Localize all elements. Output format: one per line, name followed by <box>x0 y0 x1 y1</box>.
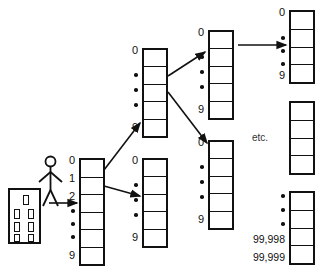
array-cell[interactable] <box>210 67 232 84</box>
level-3-top-ellipsis-dot <box>281 62 285 66</box>
level-3-top-ellipsis-dot <box>281 36 285 40</box>
array-cell[interactable] <box>210 177 232 194</box>
array-cell[interactable] <box>291 30 313 48</box>
level-1-lower-ellipsis-dot <box>134 198 138 202</box>
array-cell[interactable] <box>144 160 166 177</box>
array-cell[interactable] <box>210 32 232 49</box>
array-cell[interactable] <box>291 139 313 157</box>
array-cell[interactable] <box>144 230 166 246</box>
level-0-index-ellipsis-dot <box>71 235 75 239</box>
array-cell[interactable] <box>81 248 103 265</box>
level-2-lower-ellipsis-dot <box>200 180 204 184</box>
building-window <box>23 195 29 205</box>
level-2-upper-ellipsis-dot <box>200 55 204 59</box>
level-2-upper-index-0: 0 <box>191 27 204 38</box>
level-3-bottom-index-99999: 99,999 <box>243 252 285 263</box>
level-1-upper-ellipsis-dot <box>134 103 138 107</box>
array-cell[interactable] <box>81 230 103 248</box>
array-cell[interactable] <box>81 160 103 178</box>
array-cell[interactable] <box>210 142 232 159</box>
array-cell[interactable] <box>81 195 103 213</box>
level-1-upper-index-0: 0 <box>125 45 138 56</box>
level-3-array-top[interactable] <box>289 10 315 84</box>
level-3-bottom-ellipsis-dot <box>281 208 285 212</box>
level-1-upper-ellipsis-dot <box>134 88 138 92</box>
level-2-lower-index-9: 9 <box>191 214 204 225</box>
level-0-index-ellipsis-dot <box>71 209 75 213</box>
level-2-array-upper[interactable] <box>208 30 234 120</box>
level-1-upper-ellipsis-dot <box>134 73 138 77</box>
level-1-array-lower[interactable] <box>142 158 168 248</box>
building-window <box>14 222 20 232</box>
level-3-array-bottom[interactable] <box>289 191 315 265</box>
level-0-index-2: 2 <box>62 191 75 202</box>
array-cell[interactable] <box>291 211 313 229</box>
building-window <box>14 234 20 242</box>
office-building-icon <box>8 188 41 244</box>
level-3-top-index-9: 9 <box>272 70 285 81</box>
array-cell[interactable] <box>291 12 313 30</box>
level-0-array[interactable] <box>79 158 105 266</box>
array-cell[interactable] <box>291 229 313 247</box>
level-3-bottom-ellipsis-dot <box>281 222 285 226</box>
array-cell[interactable] <box>81 178 103 196</box>
level-2-lower-ellipsis-dot <box>200 195 204 199</box>
diagram-canvas: 0 1 2 9 0 9 0 9 0 9 <box>0 0 328 274</box>
level-3-bottom-ellipsis-dot <box>281 194 285 198</box>
array-cell[interactable] <box>291 121 313 139</box>
array-cell[interactable] <box>144 212 166 229</box>
level-1-lower-ellipsis-dot <box>134 183 138 187</box>
building-window <box>14 209 20 219</box>
array-cell[interactable] <box>291 48 313 66</box>
array-cell[interactable] <box>291 193 313 211</box>
level-1-lower-index-9: 9 <box>125 232 138 243</box>
array-cell[interactable] <box>144 67 166 84</box>
level-0-index-9: 9 <box>62 250 75 261</box>
array-cell[interactable] <box>144 50 166 67</box>
array-cell[interactable] <box>81 213 103 231</box>
level-1-lower-ellipsis-dot <box>134 213 138 217</box>
level-3-top-ellipsis-dot <box>281 49 285 53</box>
level-2-array-lower[interactable] <box>208 140 234 230</box>
building-window <box>28 234 34 242</box>
stick-figure-icon <box>39 157 62 207</box>
level-1-lower-index-0: 0 <box>125 155 138 166</box>
array-cell[interactable] <box>210 84 232 101</box>
level-2-upper-index-9: 9 <box>191 104 204 115</box>
array-cell[interactable] <box>291 246 313 263</box>
array-cell[interactable] <box>210 212 232 228</box>
array-cell[interactable] <box>291 156 313 173</box>
array-cell[interactable] <box>210 102 232 118</box>
level-0-index-0: 0 <box>62 155 75 166</box>
array-cell[interactable] <box>210 159 232 176</box>
array-cell[interactable] <box>144 120 166 136</box>
building-window <box>28 222 34 232</box>
level-2-upper-ellipsis-dot <box>200 85 204 89</box>
array-cell[interactable] <box>144 102 166 119</box>
array-cell[interactable] <box>144 177 166 194</box>
level-2-lower-ellipsis-dot <box>200 165 204 169</box>
level-2-lower-index-0: 0 <box>191 137 204 148</box>
array-cell[interactable] <box>144 85 166 102</box>
building-window <box>28 209 34 219</box>
level-1-upper-index-9: 9 <box>125 122 138 133</box>
level-3-top-index-0: 0 <box>272 7 285 18</box>
level-3-array-middle[interactable] <box>289 101 315 175</box>
array-cell[interactable] <box>291 103 313 121</box>
level-0-index-ellipsis-dot <box>71 222 75 226</box>
level-1-array-upper[interactable] <box>142 48 168 138</box>
arrow-level0-slot1-to-level1-lower <box>104 186 140 196</box>
array-cell[interactable] <box>291 65 313 82</box>
array-cell[interactable] <box>210 194 232 211</box>
level-0-index-1: 1 <box>62 173 75 184</box>
etc-label: etc. <box>252 132 268 143</box>
level-2-upper-ellipsis-dot <box>200 70 204 74</box>
level-3-bottom-index-99998: 99,998 <box>243 234 285 245</box>
array-cell[interactable] <box>210 49 232 66</box>
array-cell[interactable] <box>144 195 166 212</box>
